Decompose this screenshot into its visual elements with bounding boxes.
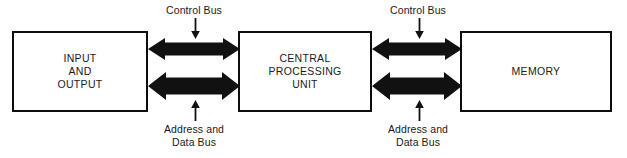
block-memory: MEMORY xyxy=(460,31,612,112)
address-data-bus-label-left: Address and Data Bus xyxy=(142,123,246,148)
address-data-bus-label-right: Address and Data Bus xyxy=(366,123,470,148)
block-diagram: INPUT AND OUTPUT CENTRAL PROCESSING UNIT… xyxy=(0,0,627,158)
control-bus-arrow-left xyxy=(148,38,240,60)
address-data-bus-arrow-right xyxy=(372,72,462,100)
block-input-output: INPUT AND OUTPUT xyxy=(12,31,148,112)
control-bus-arrow-right xyxy=(372,38,462,60)
control-bus-pointer-right-icon xyxy=(414,18,425,39)
block-central-processing-unit: CENTRAL PROCESSING UNIT xyxy=(238,31,372,112)
block-central-processing-unit-label: CENTRAL PROCESSING UNIT xyxy=(268,52,341,91)
address-data-bus-pointer-right-icon xyxy=(414,100,425,121)
control-bus-label-left: Control Bus xyxy=(144,4,244,17)
control-bus-label-right: Control Bus xyxy=(368,4,468,17)
block-input-output-label: INPUT AND OUTPUT xyxy=(58,52,103,91)
address-data-bus-arrow-left xyxy=(148,72,240,100)
block-memory-label: MEMORY xyxy=(512,65,561,78)
control-bus-pointer-left-icon xyxy=(190,18,201,39)
address-data-bus-pointer-left-icon xyxy=(190,100,201,121)
